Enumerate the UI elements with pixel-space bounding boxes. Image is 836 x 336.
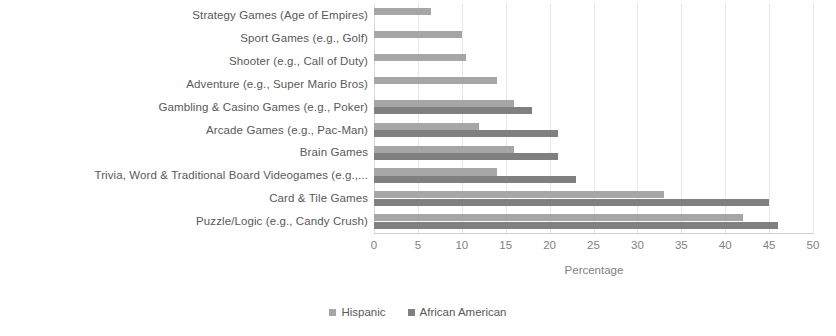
x-tick-label: 0 [371, 236, 377, 254]
bar-hispanic [374, 77, 497, 84]
bar-group [374, 210, 813, 233]
bar-african-american [374, 176, 576, 183]
category-label: Adventure (e.g., Super Mario Bros) [0, 73, 368, 96]
category-label: Strategy Games (Age of Empires) [0, 4, 368, 27]
x-tick-label: 10 [455, 236, 468, 254]
legend-item[interactable]: Hispanic [329, 306, 385, 318]
category-axis-labels: Strategy Games (Age of Empires)Sport Gam… [0, 4, 368, 233]
bar-hispanic [374, 146, 514, 153]
x-tick-label: 20 [543, 236, 556, 254]
bar-hispanic [374, 191, 664, 198]
legend-swatch-icon [329, 309, 336, 316]
bar-group [374, 187, 813, 210]
bar-african-american [374, 153, 558, 160]
bar-hispanic [374, 168, 497, 175]
bar-group [374, 27, 813, 50]
x-tick-label: 35 [675, 236, 688, 254]
category-label: Gambling & Casino Games (e.g., Poker) [0, 96, 368, 119]
bar-hispanic [374, 100, 514, 107]
category-label: Shooter (e.g., Call of Duty) [0, 50, 368, 73]
gridline-50 [813, 4, 814, 233]
x-axis-title: Percentage [374, 264, 814, 276]
legend-item[interactable]: African American [408, 306, 507, 318]
x-tick-label: 5 [415, 236, 421, 254]
x-axis-line [374, 233, 814, 234]
legend-swatch-icon [408, 309, 415, 316]
bar-group [374, 164, 813, 187]
chart-legend: HispanicAfrican American [0, 306, 836, 318]
bar-african-american [374, 199, 769, 206]
category-label: Sport Games (e.g., Golf) [0, 27, 368, 50]
category-label: Puzzle/Logic (e.g., Candy Crush) [0, 210, 368, 233]
bar-african-american [374, 107, 532, 114]
bar-group [374, 50, 813, 73]
x-axis-tick-labels: 05101520253035404550 [374, 236, 814, 254]
bar-hispanic [374, 214, 743, 221]
category-label: Arcade Games (e.g., Pac-Man) [0, 119, 368, 142]
x-tick-label: 25 [587, 236, 600, 254]
bar-hispanic [374, 8, 431, 15]
bar-group [374, 119, 813, 142]
bar-group [374, 141, 813, 164]
category-label: Brain Games [0, 141, 368, 164]
plot-area [374, 4, 813, 233]
x-tick-label: 50 [807, 236, 820, 254]
legend-label: Hispanic [341, 306, 385, 318]
bar-african-american [374, 222, 778, 229]
bar-chart: Strategy Games (Age of Empires)Sport Gam… [0, 0, 836, 336]
bar-group [374, 96, 813, 119]
bar-hispanic [374, 123, 479, 130]
x-tick-label: 30 [631, 236, 644, 254]
bar-group [374, 4, 813, 27]
bar-rows [374, 4, 813, 233]
category-label: Trivia, Word & Traditional Board Videoga… [0, 164, 368, 187]
legend-label: African American [420, 306, 507, 318]
bar-group [374, 73, 813, 96]
bar-hispanic [374, 54, 466, 61]
x-tick-label: 45 [763, 236, 776, 254]
category-label: Card & Tile Games [0, 187, 368, 210]
bar-hispanic [374, 31, 462, 38]
x-tick-label: 40 [719, 236, 732, 254]
x-tick-label: 15 [499, 236, 512, 254]
bar-african-american [374, 130, 558, 137]
